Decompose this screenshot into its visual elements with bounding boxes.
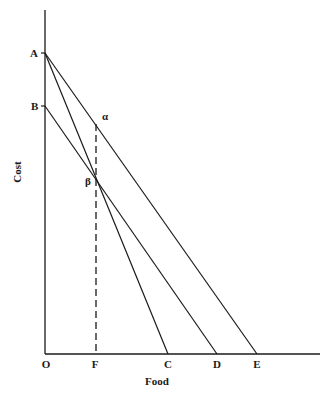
- label-d: D: [213, 358, 221, 370]
- x-axis-title: Food: [145, 375, 169, 387]
- label-beta: β: [85, 175, 91, 187]
- label-origin: O: [42, 358, 51, 370]
- label-b: B: [31, 100, 39, 112]
- label-f: F: [92, 358, 99, 370]
- line-ac: [45, 53, 168, 354]
- diagram: A B α β O F C D E Food Cost: [0, 0, 332, 396]
- label-c: C: [164, 358, 172, 370]
- line-bd: [45, 106, 217, 354]
- line-ae: [45, 53, 257, 354]
- label-e: E: [253, 358, 260, 370]
- label-alpha: α: [102, 110, 109, 122]
- y-axis-title: Cost: [11, 161, 23, 183]
- label-a: A: [30, 47, 38, 59]
